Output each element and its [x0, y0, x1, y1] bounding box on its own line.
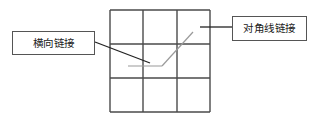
label-box-horizontal-link: 横向链接 [12, 31, 95, 55]
leader-line-horizontal-label [95, 42, 150, 63]
link-group [128, 32, 193, 66]
label-text-horizontal-link: 横向链接 [33, 38, 75, 49]
label-box-diagonal-link: 对角线链接 [232, 16, 307, 41]
leader-group [95, 27, 232, 63]
label-text-diagonal-link: 对角线链接 [243, 23, 296, 34]
diagram-root: 横向链接 对角线链接 [0, 0, 315, 125]
grid-group [110, 10, 210, 112]
